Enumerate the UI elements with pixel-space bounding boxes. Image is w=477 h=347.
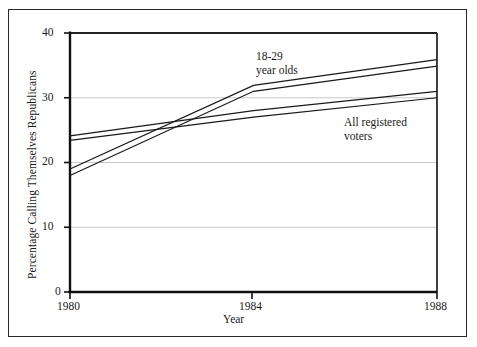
annotation-youth-line1: 18-29 <box>256 49 298 63</box>
annotation-allvoters-line1: All registered <box>344 115 407 129</box>
annotation-allvoters-line2: voters <box>344 129 407 143</box>
x-tick-label-1980: 1980 <box>57 300 80 312</box>
x-tick-label-1984: 1984 <box>239 300 262 312</box>
y-tick-label-0: 0 <box>55 285 61 297</box>
chart-figure: Percentage Calling Themselves Republican… <box>0 0 477 347</box>
series-annotation-18-29: 18-29 year olds <box>256 49 298 77</box>
y-tick-label-10: 10 <box>42 220 54 232</box>
x-tick-label-1988: 1988 <box>424 300 447 312</box>
y-axis-title: Percentage Calling Themselves Republican… <box>26 70 38 279</box>
y-tick-label-30: 30 <box>42 91 54 103</box>
series-annotation-all-registered-voters: All registered voters <box>344 115 407 143</box>
y-tick-label-20: 20 <box>42 155 54 167</box>
x-axis-title: Year <box>223 313 244 325</box>
plot-canvas <box>0 0 477 347</box>
y-tick-label-40: 40 <box>42 26 54 38</box>
annotation-youth-line2: year olds <box>256 63 298 77</box>
